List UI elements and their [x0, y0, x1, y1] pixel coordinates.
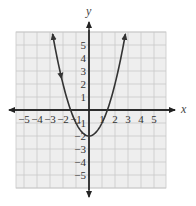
y-tick-label: −3: [74, 143, 86, 155]
y-tick-label: 2: [81, 78, 87, 90]
y-tick-label: 5: [81, 39, 87, 51]
x-tick-label: −4: [31, 113, 43, 125]
x-tick-label: 3: [125, 113, 131, 125]
y-tick-label: −5: [74, 169, 86, 181]
y-tick-label: −4: [74, 156, 86, 168]
x-tick-label: 4: [138, 113, 144, 125]
y-tick-label: 3: [81, 65, 87, 77]
y-tick-label: 1: [81, 91, 87, 103]
y-tick-label: −2: [74, 130, 86, 142]
x-axis-label: x: [180, 102, 187, 116]
x-tick-label: −2: [57, 113, 69, 125]
y-tick-label: 4: [81, 52, 87, 64]
parabola-graph: −5−4−3−2−11234554321−1−2−3−4−5 x y: [0, 0, 196, 206]
x-tick-label: 5: [151, 113, 157, 125]
x-tick-label: −5: [18, 113, 30, 125]
x-tick-label: −3: [44, 113, 56, 125]
x-tick-label: 2: [112, 113, 118, 125]
y-axis-label: y: [85, 4, 92, 18]
